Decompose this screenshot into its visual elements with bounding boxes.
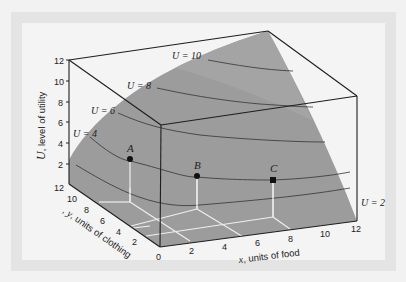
svg-text:12: 12 [54,56,64,66]
svg-text:8: 8 [84,205,89,215]
svg-text:12: 12 [351,224,361,234]
svg-text:6: 6 [255,238,260,248]
svg-text:2: 2 [189,246,194,256]
svg-text:6: 6 [58,118,63,128]
svg-text:10: 10 [54,77,64,87]
svg-text:10: 10 [320,229,330,239]
svg-text:12: 12 [54,183,64,193]
svg-text:A: A [126,142,134,154]
contour-label-u2: U = 2 [361,197,385,208]
svg-text:4: 4 [58,139,63,149]
svg-text:C: C [270,162,278,174]
contour-label-u6: U = 6 [91,105,115,116]
svg-text:10: 10 [67,194,77,204]
svg-text:4: 4 [222,242,227,252]
contour-label-u8: U = 8 [127,80,151,91]
svg-text:2: 2 [132,237,137,247]
svg-text:8: 8 [288,234,293,244]
svg-text:6: 6 [100,216,105,226]
u-axis-tick-labels: 12 10 8 6 4 2 [54,56,64,170]
svg-text:4: 4 [116,227,121,237]
utility-surface-diagram: 12 10 8 6 4 2 U, level of utility 12 10 … [0,0,406,282]
contour-label-u4: U = 4 [73,128,97,139]
x-axis-title: x, units of food [237,247,300,266]
svg-text:0: 0 [156,252,161,262]
svg-text:2: 2 [58,160,63,170]
svg-text:B: B [194,159,201,171]
svg-text:8: 8 [58,98,63,108]
contour-label-u10: U = 10 [172,50,201,61]
u-axis-title: U, level of utility [34,91,48,160]
